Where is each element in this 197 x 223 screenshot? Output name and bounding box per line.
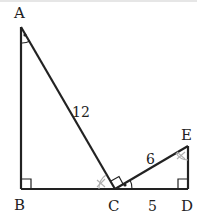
right-angle-mark-C	[111, 177, 123, 185]
label-B: B	[14, 196, 25, 214]
label-D: D	[181, 197, 193, 215]
angle-x-mark-C	[97, 175, 106, 189]
angle-x-mark-E	[176, 152, 188, 160]
right-angle-mark-B	[21, 179, 31, 189]
geometry-figure: A B C D E 12 6 5	[0, 0, 197, 223]
length-AC: 12	[72, 104, 90, 120]
label-C: C	[108, 197, 119, 215]
length-CD: 5	[148, 198, 157, 214]
label-A: A	[13, 4, 25, 22]
angle-dot-A	[23, 33, 26, 36]
segment-AC	[21, 27, 115, 189]
length-CE: 6	[146, 151, 155, 167]
label-E: E	[181, 126, 192, 144]
right-angle-mark-D	[178, 179, 188, 189]
angle-dot-C	[123, 183, 126, 186]
angle-arc-C	[130, 180, 132, 189]
angle-arc-A	[21, 41, 30, 43]
